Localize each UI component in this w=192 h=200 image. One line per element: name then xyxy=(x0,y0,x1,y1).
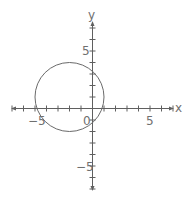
x-tick-label-pos5: 5 xyxy=(146,114,154,128)
x-tick-label-neg5: −5 xyxy=(28,114,46,128)
coordinate-plane: x y 0 −5 5 5 −5 xyxy=(0,0,192,200)
x-axis-label: x xyxy=(175,101,182,115)
origin-label: 0 xyxy=(83,114,91,128)
y-axis-label: y xyxy=(88,8,95,22)
y-tick-label-pos5: 5 xyxy=(82,44,90,58)
y-tick-label-neg5: −5 xyxy=(76,160,94,174)
